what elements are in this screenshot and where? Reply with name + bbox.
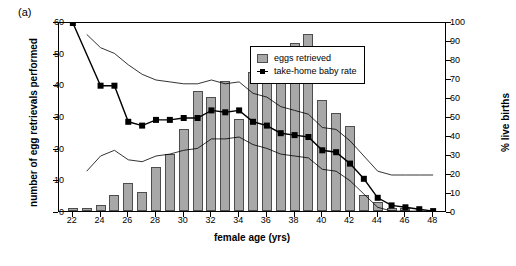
x-axis-tick-label: 40: [308, 215, 334, 225]
y-axis-left-tick-label: 20: [40, 144, 64, 154]
legend: eggs retrieved take-home baby rate: [250, 46, 365, 84]
x-axis-tick-label: 36: [253, 215, 279, 225]
y-axis-left-tick-label: 40: [40, 80, 64, 90]
y-axis-left-tick-label: 60: [40, 17, 64, 27]
data-marker: [278, 130, 284, 136]
x-axis-tick-label: 30: [170, 215, 196, 225]
y-axis-right-tick-label: 100: [450, 17, 476, 27]
y-axis-left-tick-label: 50: [40, 49, 64, 59]
legend-line-marker-icon: [257, 67, 268, 76]
y-axis-right-tick-label: 0: [450, 207, 476, 217]
chart-figure: (a) 0102030405060 0102030405060708090100…: [0, 0, 516, 266]
data-marker: [375, 195, 381, 201]
legend-label: eggs retrieved: [274, 52, 331, 65]
x-axis-tick-label: 42: [336, 215, 362, 225]
data-marker: [167, 117, 173, 123]
y-axis-right-tick-label: 90: [450, 36, 476, 46]
data-marker: [70, 23, 76, 26]
legend-item-take-home-baby-rate: take-home baby rate: [257, 65, 357, 78]
x-axis-tick-label: 46: [391, 215, 417, 225]
x-axis-tick-label: 22: [59, 215, 85, 225]
x-axis-tick-label: 32: [197, 215, 223, 225]
y-axis-right-tick-label: 30: [450, 150, 476, 160]
data-marker: [319, 147, 325, 153]
y-axis-left-title: number of egg retrievals performed: [28, 28, 39, 218]
data-marker: [389, 202, 395, 208]
data-marker: [236, 107, 242, 113]
data-marker: [416, 206, 422, 212]
x-axis-tick-label: 28: [142, 215, 168, 225]
legend-bar-swatch-icon: [257, 54, 268, 63]
data-marker: [333, 149, 339, 155]
data-marker: [292, 132, 298, 138]
data-marker: [98, 83, 104, 89]
x-axis-tick-label: 24: [87, 215, 113, 225]
data-marker: [264, 123, 270, 129]
legend-label: take-home baby rate: [274, 65, 357, 78]
data-marker: [153, 117, 159, 123]
data-marker: [222, 109, 228, 115]
data-marker: [305, 134, 311, 140]
data-marker: [181, 115, 187, 121]
x-axis-tick-label: 38: [281, 215, 307, 225]
x-axis-tick-label: 34: [225, 215, 251, 225]
y-axis-right-tick-label: 50: [450, 112, 476, 122]
y-axis-right-tick-label: 40: [450, 131, 476, 141]
y-axis-right-tick-label: 80: [450, 55, 476, 65]
data-marker: [139, 123, 145, 129]
data-marker: [361, 176, 367, 182]
data-marker: [208, 107, 214, 113]
y-axis-left-tick-label: 30: [40, 112, 64, 122]
y-axis-right-tick-label: 70: [450, 74, 476, 84]
y-axis-right-tick-label: 20: [450, 169, 476, 179]
data-marker: [195, 115, 201, 121]
x-axis-tick-label: 48: [419, 215, 445, 225]
data-marker: [125, 119, 131, 125]
y-axis-right-tick-label: 10: [450, 188, 476, 198]
data-marker: [250, 119, 256, 125]
data-marker: [402, 204, 408, 210]
data-marker: [347, 161, 353, 167]
panel-label: (a): [18, 6, 31, 18]
y-axis-left-tick-label: 10: [40, 175, 64, 185]
y-axis-right-tick-label: 60: [450, 93, 476, 103]
y-axis-right-title: % live births: [500, 28, 511, 218]
legend-item-eggs-retrieved: eggs retrieved: [257, 52, 357, 65]
x-axis-tick-label: 44: [364, 215, 390, 225]
x-axis-title: female age (yrs): [58, 232, 446, 243]
data-marker: [111, 83, 117, 89]
x-axis-tick-label: 26: [114, 215, 140, 225]
